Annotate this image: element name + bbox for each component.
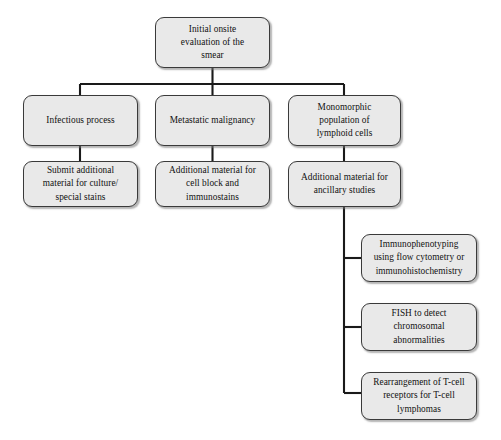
- node-immunophenotyping-flow-cytometry[interactable]: Immunophenotyping using flow cytometry o…: [361, 234, 477, 282]
- node-label: Monomorphic population of lymphoid cells: [317, 101, 373, 141]
- node-tcell-receptor-rearrangement[interactable]: Rearrangement of T-cell receptors for T-…: [361, 372, 477, 420]
- node-monomorphic-lymphoid-population[interactable]: Monomorphic population of lymphoid cells: [288, 95, 401, 146]
- node-metastatic-malignancy[interactable]: Metastatic malignancy: [155, 95, 270, 146]
- node-fish-chromosomal-abnormalities[interactable]: FISH to detect chromosomal abnormalities: [361, 303, 477, 351]
- node-infectious-process[interactable]: Infectious process: [23, 95, 138, 146]
- node-label: Metastatic malignancy: [170, 114, 255, 127]
- node-label: Rearrangement of T-cell receptors for T-…: [373, 376, 465, 416]
- node-additional-material-ancillary-studies[interactable]: Additional material for ancillary studie…: [288, 161, 401, 207]
- node-label: Initial onsite evaluation of the smear: [181, 23, 244, 63]
- node-additional-material-cell-block[interactable]: Additional material for cell block and i…: [155, 161, 270, 207]
- node-label: Immunophenotyping using flow cytometry o…: [374, 238, 465, 278]
- flowchart-canvas: Initial onsite evaluation of the smear I…: [0, 0, 501, 440]
- node-label: Additional material for cell block and i…: [169, 164, 256, 204]
- node-submit-additional-material-culture[interactable]: Submit additional material for culture/ …: [23, 161, 138, 207]
- node-initial-onsite-evaluation[interactable]: Initial onsite evaluation of the smear: [155, 17, 270, 68]
- node-label: FISH to detect chromosomal abnormalities: [392, 307, 447, 347]
- node-label: Infectious process: [46, 114, 114, 127]
- node-label: Submit additional material for culture/ …: [43, 164, 118, 204]
- node-label: Additional material for ancillary studie…: [301, 171, 388, 197]
